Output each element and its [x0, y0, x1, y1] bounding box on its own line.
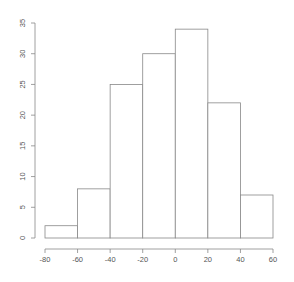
y-axis: 05101520253035 — [18, 19, 35, 240]
y-tick-label: 25 — [18, 80, 27, 88]
y-tick-label: 20 — [18, 111, 27, 119]
histogram-bar — [240, 195, 273, 238]
histogram-bar — [208, 103, 241, 238]
y-tick-label: 10 — [18, 172, 27, 180]
x-axis: -80-60-40-200204060 — [40, 249, 278, 264]
histogram-bar — [78, 189, 111, 238]
x-tick-label: 20 — [204, 255, 212, 264]
histogram-bar — [143, 54, 176, 238]
x-tick-label: -60 — [72, 255, 83, 264]
histogram-bar — [45, 226, 78, 238]
y-tick-label: 30 — [18, 50, 27, 58]
y-tick-label: 35 — [18, 19, 27, 27]
histogram-bar — [175, 29, 208, 238]
x-tick-label: 60 — [269, 255, 277, 264]
y-tick-label: 5 — [18, 205, 27, 209]
y-tick-label: 15 — [18, 142, 27, 150]
histogram-chart: -80-60-40-200204060 05101520253035 — [0, 0, 294, 282]
x-tick-label: -20 — [137, 255, 148, 264]
x-tick-label: 0 — [173, 255, 177, 264]
x-tick-label: -80 — [40, 255, 51, 264]
y-tick-label: 0 — [18, 236, 27, 240]
x-tick-label: -40 — [105, 255, 116, 264]
histogram-bars — [45, 29, 273, 238]
x-tick-label: 40 — [236, 255, 244, 264]
histogram-bar — [110, 84, 143, 238]
